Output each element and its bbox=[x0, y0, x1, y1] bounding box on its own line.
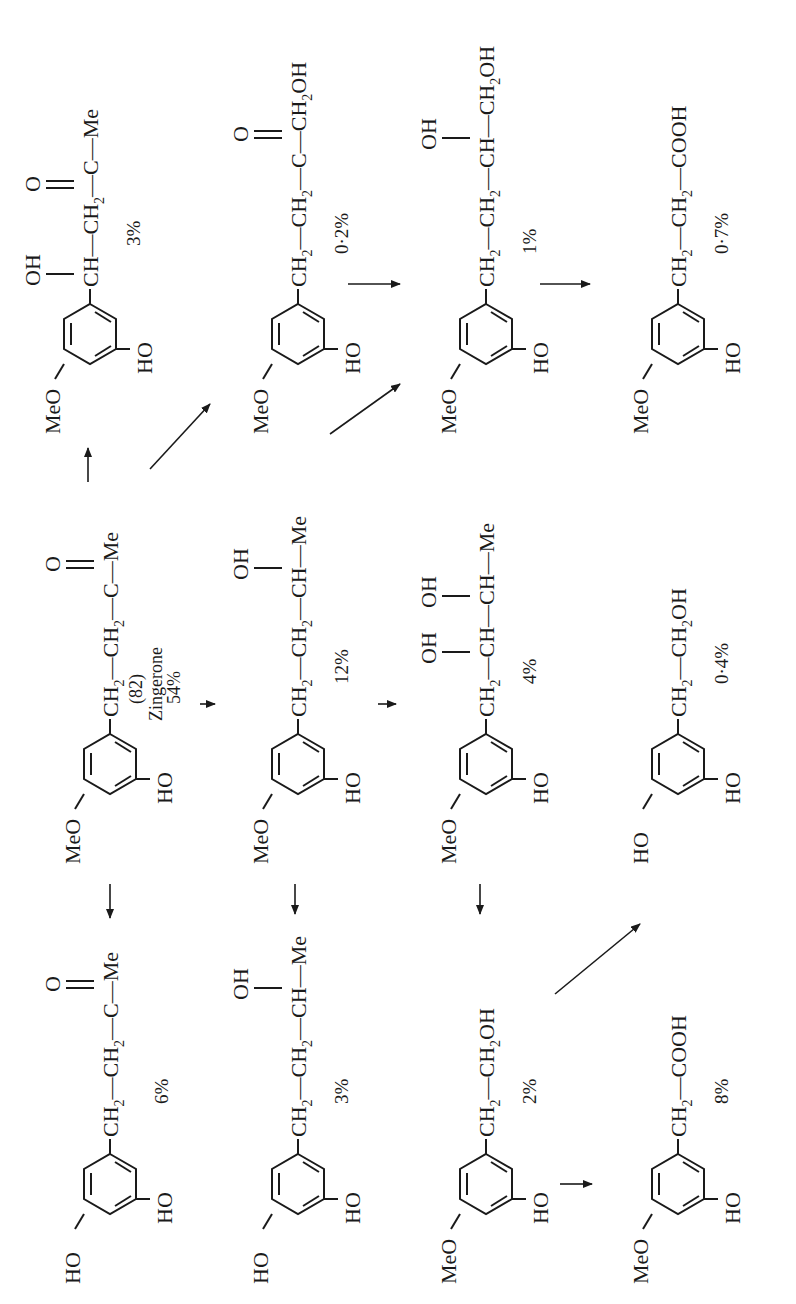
svg-text:1%: 1% bbox=[519, 229, 540, 255]
svg-text:HO: HO bbox=[720, 342, 745, 374]
svg-text:MeO: MeO bbox=[248, 389, 273, 434]
svg-text:12%: 12% bbox=[331, 649, 352, 684]
svg-text:HO: HO bbox=[528, 342, 553, 374]
compound-dihydroferulic-acid: MeO HO CH2—CH2—COOH 0·7% bbox=[628, 105, 745, 434]
svg-text:CH2—CH2—COOH: CH2—CH2—COOH bbox=[666, 105, 695, 287]
svg-text:CH2—CH2—C—Me: CH2—CH2—C—Me bbox=[98, 532, 127, 717]
svg-text:HO: HO bbox=[340, 342, 365, 374]
svg-text:OH: OH bbox=[416, 576, 441, 608]
compound-zingerol: MeO HO CH2—CH2—CH—Me OH 12% bbox=[228, 516, 365, 864]
svg-text:CH2—CH2—C—CH2OH: CH2—CH2—C—CH2OH bbox=[286, 62, 315, 287]
compound-catechol-butanol: HO HO CH2—CH2—CH—Me OH 3% bbox=[228, 936, 365, 1284]
svg-text:OH: OH bbox=[416, 632, 441, 664]
svg-text:OH: OH bbox=[228, 548, 253, 580]
compound-number: (82) bbox=[126, 674, 147, 704]
arrow-diagonal bbox=[330, 384, 400, 434]
svg-text:MeO: MeO bbox=[436, 1239, 461, 1284]
compound-hydroxy-zingerone: MeO HO CH—CH2—C—Me OH O 3% bbox=[20, 109, 157, 434]
svg-text:O: O bbox=[40, 556, 65, 572]
svg-text:CH2—CH—CH—Me: CH2—CH—CH—Me bbox=[474, 523, 503, 717]
svg-text:3%: 3% bbox=[331, 1079, 352, 1105]
svg-text:2%: 2% bbox=[519, 1079, 540, 1105]
svg-text:CH2—CH2—CH—Me: CH2—CH2—CH—Me bbox=[286, 516, 315, 717]
svg-text:HO: HO bbox=[528, 1192, 553, 1224]
svg-text:MeO: MeO bbox=[436, 389, 461, 434]
percent-label: 54% bbox=[164, 671, 184, 704]
svg-text:HO: HO bbox=[152, 772, 177, 804]
svg-text:8%: 8% bbox=[711, 1079, 732, 1105]
rotated-page: HO HO CH2—CH2—C—Me O 6% MeO HO CH2—CH2—C… bbox=[0, 0, 796, 1304]
svg-text:HO: HO bbox=[152, 1192, 177, 1224]
svg-text:CH2—CH2—C—Me: CH2—CH2—C—Me bbox=[98, 952, 127, 1137]
svg-text:O: O bbox=[20, 176, 45, 192]
compound-homovanillyl-alcohol: MeO HO CH2—CH2OH 2% bbox=[436, 1008, 553, 1284]
svg-text:HO: HO bbox=[248, 1252, 273, 1284]
compound-catechol-butanone: HO HO CH2—CH2—C—Me O 6% bbox=[40, 952, 177, 1284]
svg-text:HO: HO bbox=[340, 1192, 365, 1224]
arrow-diagonal bbox=[150, 404, 210, 469]
metabolic-pathway-diagram: HO HO CH2—CH2—C—Me O 6% MeO HO CH2—CH2—C… bbox=[0, 0, 796, 1304]
svg-text:OH: OH bbox=[228, 968, 253, 1000]
svg-text:0·7%: 0·7% bbox=[711, 213, 732, 254]
percent-label: 6% bbox=[151, 1079, 172, 1105]
compound-name: Zingerone bbox=[146, 647, 166, 721]
svg-text:CH2—CH2—CH—Me: CH2—CH2—CH—Me bbox=[286, 936, 315, 1137]
svg-text:O: O bbox=[40, 976, 65, 992]
svg-text:CH2—CH2—CH—CH2OH: CH2—CH2—CH—CH2OH bbox=[474, 46, 503, 287]
svg-text:HO: HO bbox=[60, 1252, 85, 1284]
svg-text:OH: OH bbox=[20, 254, 45, 286]
svg-text:MeO: MeO bbox=[60, 819, 85, 864]
svg-text:HO: HO bbox=[628, 832, 653, 864]
svg-text:4%: 4% bbox=[519, 659, 540, 685]
svg-text:HO: HO bbox=[720, 1192, 745, 1224]
svg-text:0·4%: 0·4% bbox=[711, 643, 732, 684]
compound-zingerone: MeO HO CH2—CH2—C—Me O (82) Zingerone 54% bbox=[40, 532, 184, 864]
svg-text:HO: HO bbox=[528, 772, 553, 804]
compound-homovanillic-acid: MeO HO CH2—COOH 8% bbox=[628, 1015, 745, 1284]
svg-text:MeO: MeO bbox=[248, 819, 273, 864]
arrow-diagonal bbox=[555, 924, 640, 994]
svg-text:MeO: MeO bbox=[628, 1239, 653, 1284]
svg-text:3%: 3% bbox=[123, 221, 144, 247]
compound-butane-diol: MeO HO CH2—CH—CH—Me OH OH 4% bbox=[416, 523, 553, 864]
compound-dihydroxyphenylethanol: HO HO CH2—CH2OH 0·4% bbox=[628, 588, 745, 864]
svg-text:OH: OH bbox=[416, 118, 441, 150]
svg-text:CH2—CH2OH: CH2—CH2OH bbox=[474, 1008, 503, 1137]
svg-text:HO: HO bbox=[132, 342, 157, 374]
svg-text:MeO: MeO bbox=[436, 819, 461, 864]
compound-hydroxymethyl-ketone: MeO HO CH2—CH2—C—CH2OH O 0·2% bbox=[228, 62, 365, 434]
svg-text:CH2—CH2OH: CH2—CH2OH bbox=[666, 588, 695, 717]
svg-text:HO: HO bbox=[340, 772, 365, 804]
svg-text:MeO: MeO bbox=[40, 389, 65, 434]
svg-text:HO: HO bbox=[720, 772, 745, 804]
svg-text:MeO: MeO bbox=[628, 389, 653, 434]
svg-text:0·2%: 0·2% bbox=[331, 213, 352, 254]
compound-butane-diol-primary: MeO HO CH2—CH2—CH—CH2OH OH 1% bbox=[416, 46, 553, 434]
svg-text:CH—CH2—C—Me: CH—CH2—C—Me bbox=[78, 109, 107, 287]
svg-text:CH2—COOH: CH2—COOH bbox=[666, 1015, 695, 1137]
svg-text:O: O bbox=[228, 126, 253, 142]
